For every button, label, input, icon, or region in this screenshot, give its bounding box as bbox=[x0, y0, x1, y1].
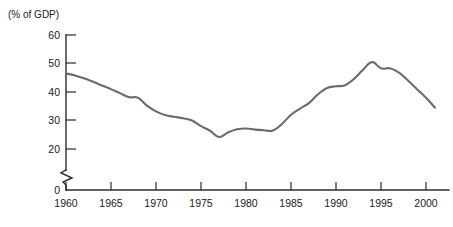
x-tick-label-1970: 1970 bbox=[144, 197, 168, 209]
data-series-line bbox=[66, 62, 435, 137]
x-tick-labels: 1960 1965 1970 1975 1980 1985 1990 1995 … bbox=[54, 197, 438, 209]
x-tick-label-2000: 2000 bbox=[414, 197, 438, 209]
y-tick-label-20: 20 bbox=[48, 143, 60, 155]
y-tick-label-0: 0 bbox=[54, 184, 60, 196]
x-tick-label-1960: 1960 bbox=[54, 197, 78, 209]
x-tick-label-1965: 1965 bbox=[99, 197, 123, 209]
y-tick-labels: 60 50 40 30 20 0 bbox=[48, 29, 60, 196]
chart-container: (% of GDP) 60 50 40 30 20 0 bbox=[0, 0, 453, 227]
y-tick-label-50: 50 bbox=[48, 57, 60, 69]
y-axis-caption: (% of GDP) bbox=[8, 9, 59, 20]
x-tick-label-1980: 1980 bbox=[234, 197, 258, 209]
y-tick-label-40: 40 bbox=[48, 86, 60, 98]
line-chart: (% of GDP) 60 50 40 30 20 0 bbox=[0, 0, 453, 227]
y-tick-marks bbox=[66, 35, 76, 149]
y-tick-label-30: 30 bbox=[48, 114, 60, 126]
x-tick-label-1995: 1995 bbox=[369, 197, 393, 209]
x-tick-label-1990: 1990 bbox=[324, 197, 348, 209]
x-tick-label-1975: 1975 bbox=[189, 197, 213, 209]
y-tick-label-60: 60 bbox=[48, 29, 60, 41]
x-tick-label-1985: 1985 bbox=[279, 197, 303, 209]
x-tick-marks bbox=[66, 182, 426, 190]
